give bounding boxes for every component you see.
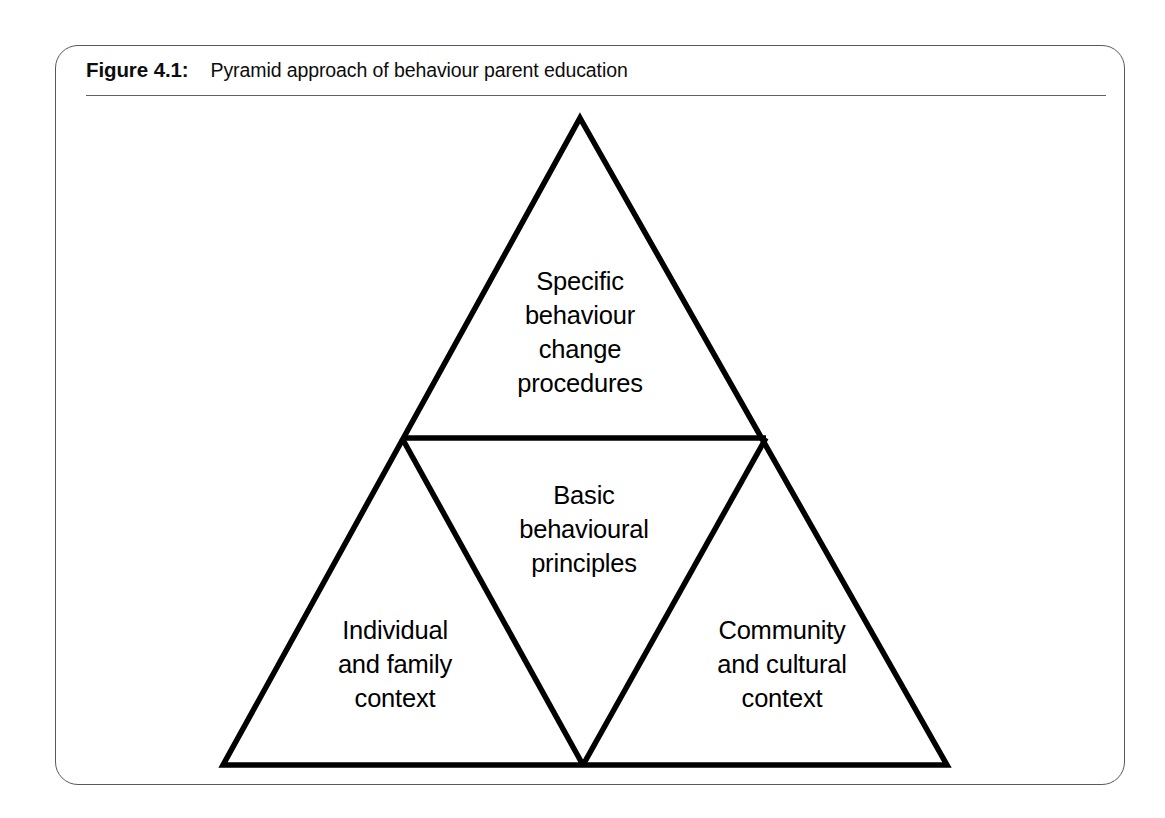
figure-frame: Figure 4.1:Pyramid approach of behaviour… [55,45,1125,785]
pyramid-level-top-label: Specific behaviour change procedures [430,264,730,400]
pyramid-level-middle-label: Basic behavioural principles [468,478,700,580]
figure-number-label: Figure 4.1: [86,58,189,81]
caption-divider-rule [86,95,1106,96]
pyramid-level-bottom-left-label: Individual and family context [267,613,523,715]
pyramid-level-bottom-right-label: Community and cultural context [647,613,917,715]
figure-caption: Figure 4.1:Pyramid approach of behaviour… [86,58,628,82]
figure-caption-text: Pyramid approach of behaviour parent edu… [211,59,628,81]
